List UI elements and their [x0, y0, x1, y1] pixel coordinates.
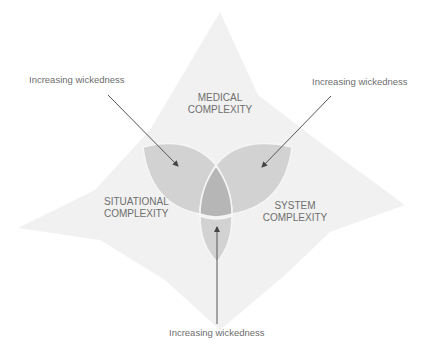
callout-top-right: Increasing wickedness: [312, 76, 408, 87]
situational-line1: SITUATIONAL: [104, 196, 184, 208]
medical-line1: MEDICAL: [180, 92, 260, 104]
medical-complexity-label: MEDICAL COMPLEXITY: [180, 92, 260, 116]
callout-top-left: Increasing wickedness: [29, 74, 125, 85]
system-complexity-label: SYSTEM COMPLEXITY: [255, 200, 335, 224]
callout-bottom: Increasing wickedness: [169, 327, 265, 338]
system-line2: COMPLEXITY: [255, 212, 335, 224]
medical-line2: COMPLEXITY: [180, 104, 260, 116]
wickedness-venn-diagram: [0, 0, 436, 350]
situational-complexity-label: SITUATIONAL COMPLEXITY: [104, 196, 184, 220]
system-line1: SYSTEM: [255, 200, 335, 212]
situational-line2: COMPLEXITY: [104, 208, 184, 220]
